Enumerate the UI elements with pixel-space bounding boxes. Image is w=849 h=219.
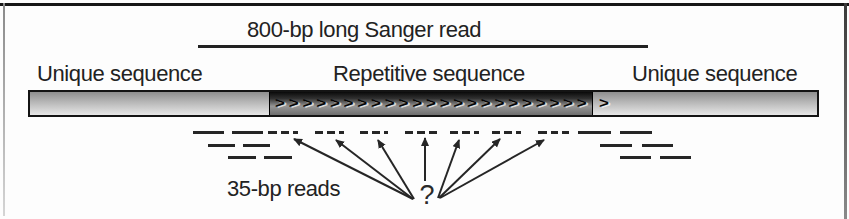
35bp-read-solid — [264, 156, 292, 159]
35bp-read-dash — [405, 131, 413, 134]
35bp-read-dash — [562, 131, 569, 134]
35bp-read-dash — [462, 131, 470, 134]
35bp-read-dash — [315, 131, 323, 134]
35bp-read-dash — [450, 131, 458, 134]
35bp-read-dash — [504, 131, 512, 134]
35bp-read-solid — [208, 144, 235, 147]
35bp-read-dash — [268, 131, 277, 134]
35bp-read-solid — [620, 156, 651, 159]
35bp-read-dash — [281, 131, 289, 134]
35bp-read-dash — [360, 131, 368, 134]
35bp-read-dash — [551, 131, 558, 134]
ambiguous-mapping-question-mark: ? — [412, 180, 442, 211]
35bp-read-dash — [372, 131, 380, 134]
35bp-read-dash — [339, 131, 344, 134]
35bp-read-dash — [417, 131, 425, 134]
35bp-read-dash — [429, 131, 437, 134]
35bp-read-dash — [538, 131, 547, 134]
35bp-read-dash — [384, 131, 388, 134]
sequencing-reads-diagram: 800-bp long Sanger read Unique sequence … — [0, 0, 849, 219]
35bp-read-solid — [600, 144, 632, 147]
35bp-read-dash — [327, 131, 335, 134]
35bp-read-solid — [660, 156, 691, 159]
35bp-read-solid — [642, 144, 673, 147]
35bp-read-dash — [516, 131, 521, 134]
short-reads-label: 35-bp reads — [227, 176, 340, 202]
35bp-read-dash — [293, 131, 298, 134]
35bp-read-solid — [243, 144, 270, 147]
35bp-read-solid — [193, 131, 224, 134]
35bp-read-solid — [578, 131, 611, 134]
35bp-read-solid — [620, 131, 652, 134]
35bp-read-dash — [492, 131, 500, 134]
35bp-read-solid — [228, 156, 256, 159]
35bp-read-dash — [474, 131, 479, 134]
35bp-read-solid — [232, 131, 263, 134]
